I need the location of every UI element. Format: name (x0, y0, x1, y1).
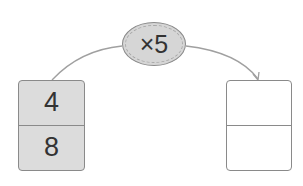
input-numerator: 4 (19, 81, 84, 126)
operator-ellipse: ×5 (122, 22, 186, 66)
output-numerator-blank[interactable] (227, 81, 291, 126)
arc-out (186, 46, 258, 79)
output-denominator-blank[interactable] (227, 126, 291, 171)
operator-label: ×5 (140, 30, 169, 59)
input-fraction-box: 4 8 (18, 80, 85, 171)
arc-in (52, 46, 122, 80)
input-denominator: 8 (19, 126, 84, 171)
output-fraction-box (226, 80, 292, 171)
